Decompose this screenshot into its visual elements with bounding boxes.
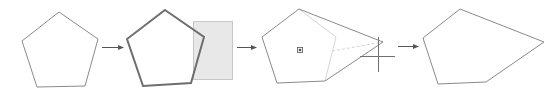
reshaped-polygon-shape bbox=[423, 9, 544, 84]
center-marker-icon bbox=[298, 48, 303, 53]
step-original-pentagon bbox=[22, 12, 98, 87]
dragged-polygon-shape bbox=[262, 9, 383, 83]
step-selected-pentagon bbox=[127, 10, 233, 86]
step-reshaped-polygon bbox=[423, 9, 544, 84]
diagram-canvas bbox=[0, 0, 560, 96]
ghost-edge bbox=[332, 42, 383, 51]
pentagon-shape bbox=[22, 12, 98, 87]
step-dragging-vertex bbox=[262, 9, 395, 83]
ghost-edge bbox=[299, 9, 336, 37]
diagram-svg bbox=[0, 0, 560, 96]
selected-pentagon-shape bbox=[127, 10, 204, 86]
